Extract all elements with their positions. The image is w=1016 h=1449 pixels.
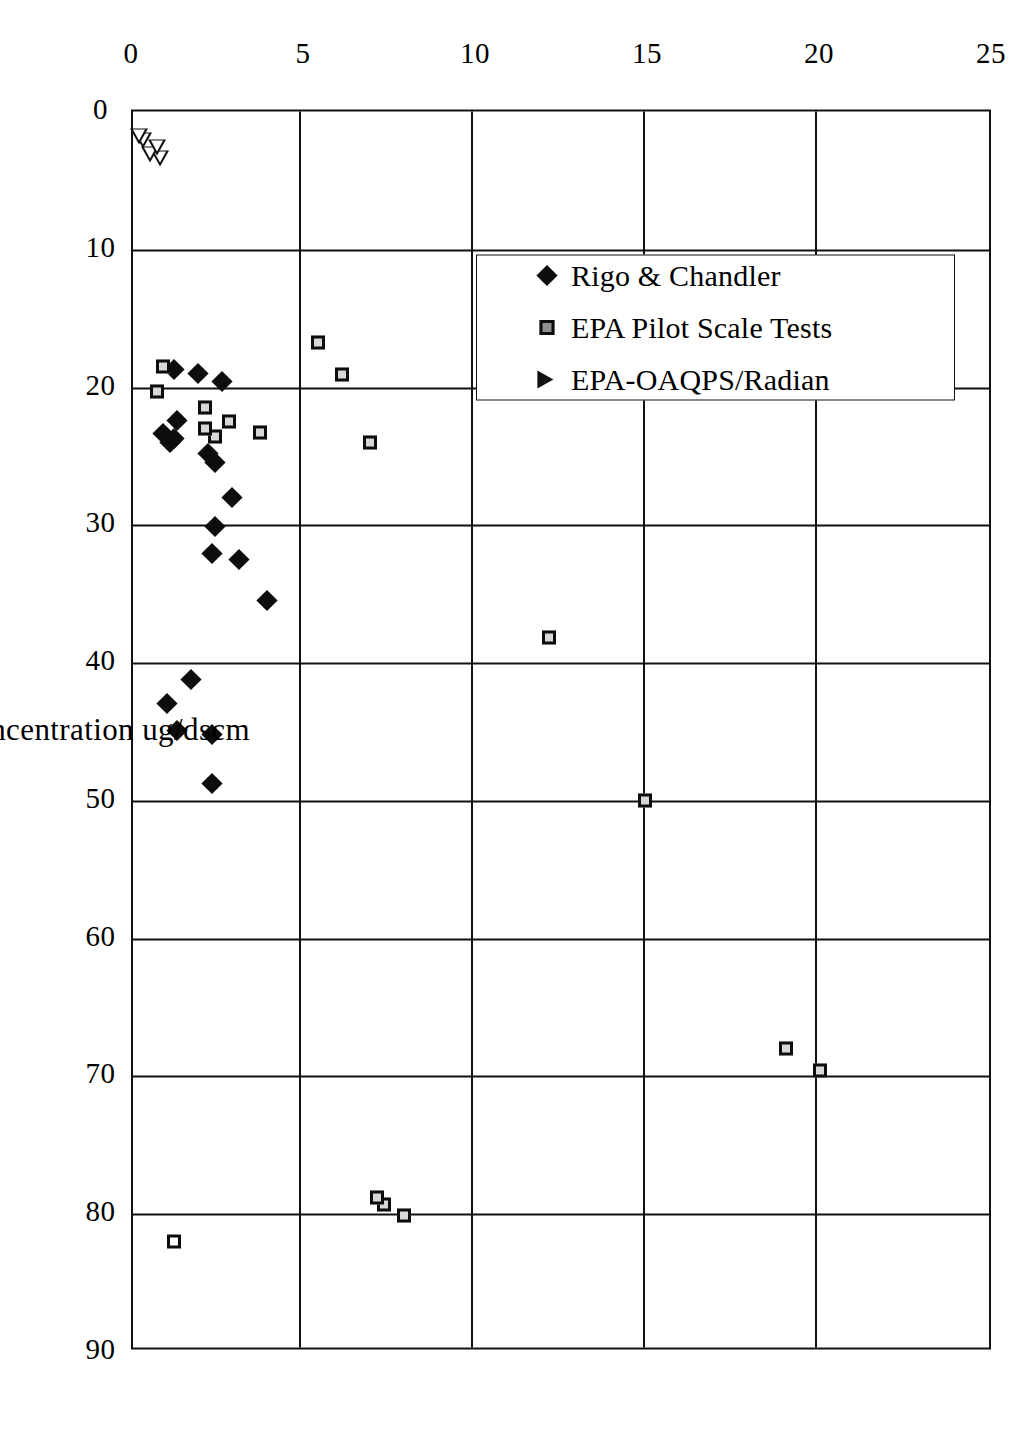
triangle-marker-icon xyxy=(532,364,562,394)
legend-item-label: EPA-OAQPS/Radian xyxy=(571,362,830,396)
gridline-y-10 xyxy=(471,111,473,1347)
diamond-marker-icon xyxy=(532,260,562,290)
data-point xyxy=(150,384,164,398)
data-point xyxy=(222,486,243,507)
data-point xyxy=(813,1063,827,1077)
y-tick-label-20: 20 xyxy=(789,37,849,70)
data-point xyxy=(256,590,277,611)
data-point xyxy=(198,400,212,414)
data-point xyxy=(253,425,267,439)
legend-item-label: Rigo & Chandler xyxy=(571,258,781,292)
data-point xyxy=(222,414,236,428)
data-point xyxy=(311,335,325,349)
data-point xyxy=(167,409,188,430)
x-tick-label-30: 30 xyxy=(86,506,116,539)
x-tick-label-40: 40 xyxy=(86,644,116,677)
data-point xyxy=(167,1234,181,1248)
data-point xyxy=(335,367,349,381)
data-point xyxy=(370,1190,384,1204)
data-point xyxy=(201,773,222,794)
data-point xyxy=(228,548,249,569)
legend: Rigo & ChandlerEPA Pilot Scale TestsEPA-… xyxy=(476,254,954,400)
data-point xyxy=(779,1041,793,1055)
data-point xyxy=(198,421,212,435)
y-tick-label-5: 5 xyxy=(273,37,333,70)
data-point xyxy=(187,362,208,383)
legend-item-diamond: Rigo & Chandler xyxy=(526,249,906,301)
gridline-x-70 xyxy=(133,1075,989,1077)
data-point xyxy=(156,359,170,373)
data-point xyxy=(180,668,201,689)
gridline-x-50 xyxy=(133,800,989,802)
gridline-x-80 xyxy=(133,1213,989,1215)
gridline-x-40 xyxy=(133,662,989,664)
data-point xyxy=(638,793,652,807)
x-tick-label-10: 10 xyxy=(86,230,116,263)
figure-page: Rigo & ChandlerEPA Pilot Scale TestsEPA-… xyxy=(0,0,1016,1449)
x-tick-label-20: 20 xyxy=(86,368,116,401)
y-tick-label-0: 0 xyxy=(101,37,161,70)
x-tick-label-0: 0 xyxy=(93,93,108,126)
x-tick-label-60: 60 xyxy=(86,919,116,952)
x-tick-label-70: 70 xyxy=(86,1057,116,1090)
x-tick-label-90: 90 xyxy=(86,1333,116,1366)
legend-items: Rigo & ChandlerEPA Pilot Scale TestsEPA-… xyxy=(526,249,906,405)
gridline-y-5 xyxy=(299,111,301,1347)
x-tick-label-50: 50 xyxy=(86,781,116,814)
y-tick-label-25: 25 xyxy=(961,37,1016,70)
data-point xyxy=(363,435,377,449)
y-tick-label-10: 10 xyxy=(445,37,505,70)
x-tick-label-80: 80 xyxy=(86,1195,116,1228)
data-point xyxy=(204,515,225,536)
legend-item-square: EPA Pilot Scale Tests xyxy=(526,301,906,353)
data-point xyxy=(542,630,556,644)
plot-area: Rigo & ChandlerEPA Pilot Scale TestsEPA-… xyxy=(131,109,991,1349)
gridline-x-60 xyxy=(133,938,989,940)
square-marker-icon xyxy=(532,312,562,342)
legend-item-label: EPA Pilot Scale Tests xyxy=(571,310,832,344)
rotated-chart-stage: Rigo & ChandlerEPA Pilot Scale TestsEPA-… xyxy=(0,0,1016,1449)
data-point xyxy=(130,128,148,144)
legend-item-triangle: EPA-OAQPS/Radian xyxy=(526,353,906,405)
y-tick-label-15: 15 xyxy=(617,37,677,70)
gridline-x-30 xyxy=(133,524,989,526)
data-point xyxy=(201,543,222,564)
x-axis-title: Cadmium Concentration ug/dscm xyxy=(0,711,250,747)
data-point xyxy=(397,1208,411,1222)
